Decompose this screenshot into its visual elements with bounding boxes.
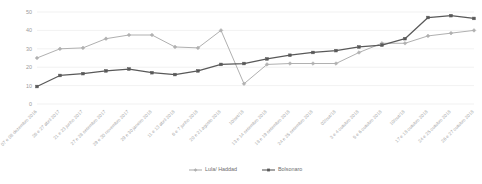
data-point bbox=[450, 14, 453, 17]
data-point bbox=[105, 70, 108, 73]
series-bolsonaro bbox=[36, 14, 476, 88]
data-point bbox=[150, 33, 154, 37]
y-axis-tick-label: 50 bbox=[26, 9, 32, 15]
data-point bbox=[127, 33, 131, 37]
data-point bbox=[289, 54, 292, 57]
x-axis-tick-label: 02/out/18 bbox=[320, 109, 337, 126]
data-point bbox=[197, 70, 200, 73]
series-line bbox=[37, 30, 474, 83]
data-point bbox=[335, 49, 338, 52]
series-lula-haddad bbox=[35, 29, 476, 86]
data-point bbox=[473, 17, 476, 20]
data-point bbox=[427, 16, 430, 19]
data-point bbox=[220, 63, 223, 66]
legend-swatch-marker bbox=[194, 168, 198, 172]
series-group bbox=[35, 14, 476, 88]
data-point bbox=[358, 46, 361, 49]
data-point bbox=[151, 71, 154, 74]
data-point bbox=[426, 34, 430, 38]
legend-label: Lula/ Haddad bbox=[205, 166, 237, 172]
data-point bbox=[312, 51, 315, 54]
legend-swatch-marker bbox=[267, 169, 270, 172]
x-axis-tick-label: 10/out/18 bbox=[389, 109, 406, 126]
data-point bbox=[173, 45, 177, 49]
y-axis-labels-group: 01020304050 bbox=[26, 9, 32, 107]
chart-legend: Lula/ HaddadBolsonaro bbox=[189, 166, 302, 172]
data-point bbox=[357, 51, 361, 55]
data-point bbox=[128, 68, 131, 71]
data-point bbox=[81, 46, 85, 50]
data-point bbox=[472, 29, 476, 33]
data-point bbox=[243, 62, 246, 65]
y-axis-tick-label: 0 bbox=[29, 101, 32, 107]
series-line bbox=[37, 16, 474, 87]
data-point bbox=[404, 37, 407, 40]
data-point bbox=[266, 58, 269, 61]
data-point bbox=[59, 74, 62, 77]
data-point bbox=[311, 62, 315, 66]
legend-item-lula-haddad[interactable]: Lula/ Haddad bbox=[189, 166, 237, 172]
x-axis-tick-label: 10/set/18 bbox=[228, 109, 245, 126]
chart-canvas: 01020304050 07 e 08 dezembro 201626 e 27… bbox=[0, 0, 482, 184]
data-point bbox=[35, 56, 39, 60]
data-point bbox=[288, 62, 292, 66]
data-point bbox=[174, 73, 177, 76]
x-axis-labels-group: 07 e 08 dezembro 201626 e 27 abril 20172… bbox=[0, 109, 475, 147]
data-point bbox=[82, 72, 85, 75]
data-point bbox=[36, 85, 39, 88]
y-axis-tick-label: 20 bbox=[26, 64, 32, 70]
data-point bbox=[334, 62, 338, 66]
legend-item-bolsonaro[interactable]: Bolsonaro bbox=[262, 166, 302, 172]
data-point bbox=[403, 41, 407, 45]
data-point bbox=[58, 47, 62, 51]
data-point bbox=[381, 44, 384, 47]
data-point bbox=[449, 31, 453, 35]
x-axis-tick-label: 07 e 08 dezembro 2016 bbox=[0, 109, 38, 147]
gridlines-group bbox=[37, 12, 474, 104]
y-axis-tick-label: 10 bbox=[26, 83, 32, 89]
y-axis-tick-label: 40 bbox=[26, 27, 32, 33]
line-chart: 01020304050 07 e 08 dezembro 201626 e 27… bbox=[0, 0, 482, 184]
y-axis-tick-label: 30 bbox=[26, 46, 32, 52]
legend-label: Bolsonaro bbox=[278, 166, 302, 172]
data-point bbox=[104, 37, 108, 41]
